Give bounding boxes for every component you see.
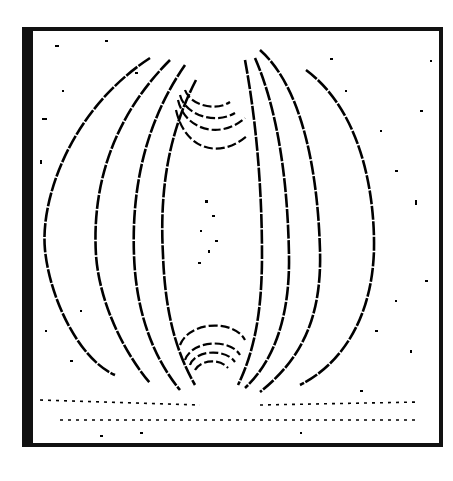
field-line-left-inner <box>162 80 196 385</box>
bottom-pole-arc-2 <box>190 353 235 365</box>
field-line-figure <box>0 0 453 481</box>
field-line-right-3 <box>260 50 320 392</box>
top-pole-arc-1 <box>185 90 230 107</box>
bottom-pole-arc-4 <box>180 326 245 345</box>
field-line-left-2 <box>95 60 170 383</box>
top-pole-arc-3 <box>178 100 245 130</box>
bottom-pole-arc-1 <box>195 361 228 370</box>
field-line-right-outer <box>300 70 374 385</box>
field-lines-drawing <box>0 0 453 481</box>
bottom-noise-line-2 <box>40 400 200 405</box>
bottom-noise-line-3 <box>260 402 420 405</box>
